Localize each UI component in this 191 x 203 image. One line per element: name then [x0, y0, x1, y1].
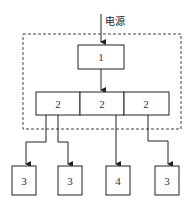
arrow-2c-to-3c — [148, 115, 168, 164]
box-2b-label: 2 — [99, 98, 105, 110]
box-2c-label: 2 — [143, 98, 149, 110]
box-2a-label: 2 — [55, 98, 61, 110]
box-3a-label: 3 — [21, 175, 27, 187]
arrow-2a-to-3a — [26, 115, 46, 164]
box-1-label: 1 — [98, 51, 104, 63]
box-3c-label: 3 — [164, 175, 170, 187]
arrow-2a-to-3b — [58, 115, 68, 164]
box-4-label: 4 — [115, 175, 121, 187]
block-diagram: 电源 1 2 2 2 3 3 4 3 — [0, 0, 191, 203]
power-label: 电源 — [105, 15, 125, 27]
box-3b-label: 3 — [67, 175, 73, 187]
